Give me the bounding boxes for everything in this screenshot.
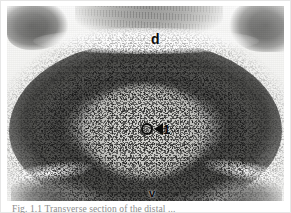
figure-caption: Fig. 1.1 Transverse section of the dista… bbox=[12, 204, 280, 213]
open-circle-marker-icon bbox=[141, 123, 153, 135]
micrograph-plate[interactable]: d v 1 bbox=[7, 6, 284, 201]
figure-root: d v 1 Fig. 1.1 Transverse section of the… bbox=[0, 0, 291, 213]
ventral-label: v bbox=[149, 188, 155, 199]
left-arrowhead-icon bbox=[154, 123, 163, 135]
core-stipple-mask bbox=[7, 6, 284, 201]
core-nuclei-stipple bbox=[7, 6, 284, 201]
dorsal-label: d bbox=[151, 32, 160, 46]
numeric-label-1: 1 bbox=[163, 123, 170, 136]
